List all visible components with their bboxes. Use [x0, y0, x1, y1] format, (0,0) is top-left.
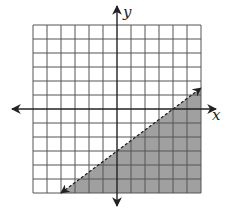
x-axis-label: x: [212, 106, 221, 124]
coordinate-plane: y x: [0, 0, 227, 211]
y-axis-label: y: [122, 3, 132, 21]
